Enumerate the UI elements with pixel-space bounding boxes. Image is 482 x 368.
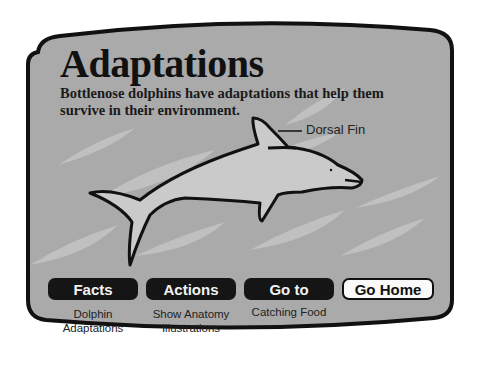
go-home-button[interactable]: Go Home [342, 278, 434, 300]
go-to-caption: Catching Food [244, 305, 334, 319]
caption-line: Adaptations [48, 321, 138, 335]
facts-button[interactable]: Facts [48, 278, 138, 300]
actions-button[interactable]: Actions [146, 278, 236, 300]
caption-line: Dolphin [48, 307, 138, 321]
page-title: Adaptations [60, 40, 263, 87]
page-subtitle: Bottlenose dolphins have adaptations tha… [60, 85, 390, 119]
caption-line: Catching Food [244, 305, 334, 319]
caption-line: Show Anatomy [146, 307, 236, 321]
actions-caption: Show Anatomy Illustrations [146, 307, 236, 335]
dorsal-fin-label: Dorsal Fin [306, 122, 365, 137]
go-to-button[interactable]: Go to [244, 278, 334, 300]
caption-line: Illustrations [146, 321, 236, 335]
facts-caption: Dolphin Adaptations [48, 307, 138, 335]
